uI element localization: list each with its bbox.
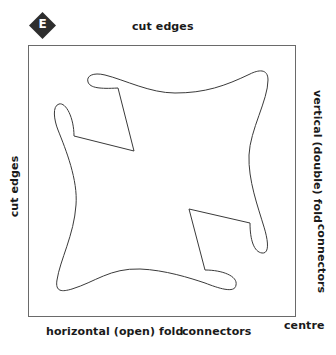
label-right-connectors: connectors <box>315 224 328 294</box>
label-centre: centre <box>284 319 325 332</box>
cut-outline-shape <box>0 0 336 355</box>
label-right-vertical-fold: vertical (double) fold <box>311 90 324 223</box>
label-bottom-connectors: connectors <box>182 325 252 338</box>
label-left-cut-edges: cut edges <box>8 156 21 218</box>
label-bottom-horizontal-fold: horizontal (open) fold <box>46 325 183 338</box>
